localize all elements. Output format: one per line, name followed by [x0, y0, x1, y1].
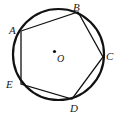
vertex-label-d: D [70, 103, 78, 114]
center-point-dot [53, 50, 56, 53]
vertex-label-a: A [9, 25, 16, 36]
vertex-label-e: E [6, 79, 13, 90]
geometry-figure: A B C D E O [0, 0, 120, 117]
center-label-o: O [57, 54, 64, 64]
vertex-label-b: B [73, 2, 80, 13]
vertex-label-c: C [106, 51, 113, 62]
